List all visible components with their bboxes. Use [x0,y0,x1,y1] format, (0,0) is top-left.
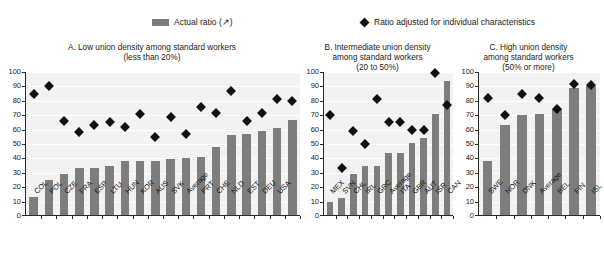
diamond-marker[interactable] [348,126,358,136]
diamond-marker[interactable] [360,139,370,149]
y-tick-label: 100 [8,68,21,76]
y-tick-label: 30 [13,169,21,177]
y-tick-label: 10 [466,198,474,206]
y-tick-label: 100 [306,68,319,76]
category-slot: GBR [406,188,418,238]
category-slot: SWE [479,188,496,238]
diamond-swatch-icon [360,17,370,27]
y-tick-label: 10 [311,198,319,206]
y-tick-label: 80 [13,97,21,105]
chart-legend: Actual ratio (↗) Ratio adjusted for indi… [0,14,604,30]
diamond-marker[interactable] [257,108,267,118]
category-slot: ESP [87,188,102,238]
y-tick-label: 50 [13,140,21,148]
y-tick-label: 90 [13,83,21,91]
legend-label-actual-ratio: Actual ratio (↗) [174,18,233,27]
diamond-marker[interactable] [150,132,160,142]
panel-a-y-axis: 1009080706050403020100 [2,72,26,216]
diamond-marker[interactable] [372,94,382,104]
y-tick-label: 40 [466,155,474,163]
diamond-marker[interactable] [535,93,545,103]
diamond-marker[interactable] [105,117,115,127]
category-slot: KOR [133,188,148,238]
bar-swatch-icon [152,19,169,26]
y-tick-label: 40 [311,155,319,163]
diamond-marker[interactable] [337,163,347,173]
category-slot: Average [531,188,548,238]
panel-a-category-labels: COLPOLCZEFRAESPLTUHUNKORAUSSVKAveragePRT… [26,188,300,238]
y-tick-label: 30 [311,169,319,177]
y-tick-label: 20 [13,183,21,191]
diamond-marker[interactable] [287,96,297,106]
category-slot: GRC [371,188,383,238]
diamond-marker[interactable] [272,94,282,104]
y-tick-label: 90 [311,83,319,91]
diamond-marker[interactable] [384,117,394,127]
category-slot: DEU [254,188,269,238]
category-slot [285,188,300,238]
panel-a-title-line1: A. Low union density among standard work… [2,43,302,53]
diamond-marker[interactable] [135,109,145,119]
diamond-marker[interactable] [90,120,100,130]
panel-b-title: B. Intermediate union density among stan… [300,42,455,72]
diamond-marker[interactable] [120,122,130,132]
diamond-marker[interactable] [44,81,54,91]
legend-item-adjusted-ratio: Ratio adjusted for individual characteri… [360,18,535,27]
diamond-marker[interactable] [227,87,237,97]
panel-a-title-line2: (less than 20%) [2,53,302,63]
diamond-marker[interactable] [59,116,69,126]
category-slot: CHE [209,188,224,238]
y-tick-label: 70 [311,111,319,119]
category-slot: AUT [418,188,430,238]
diamond-marker[interactable] [166,112,176,122]
y-tick-label: 10 [13,198,21,206]
category-slot: ITA [394,188,406,238]
diamond-marker[interactable] [500,110,510,120]
diamond-marker[interactable] [419,125,429,135]
diamond-marker[interactable] [181,129,191,139]
diamond-marker[interactable] [407,125,417,135]
y-tick-label: 0 [17,212,21,220]
panel-a-title: A. Low union density among standard work… [2,42,302,72]
diamond-marker[interactable] [483,93,493,103]
diamond-marker[interactable] [242,116,252,126]
y-tick-label: 80 [311,97,319,105]
category-slot: Average [383,188,395,238]
panel-b-title-line2: among standard workers [300,53,455,63]
legend-item-actual-ratio: Actual ratio (↗) [152,18,233,27]
panel-b-title-line1: B. Intermediate union density [300,43,455,53]
y-tick-label: 30 [466,169,474,177]
y-tick-label: 50 [466,140,474,148]
category-slot: BEL [548,188,565,238]
panel-c-title: C. High union density among standard wor… [455,42,602,72]
category-slot: CHL [347,188,359,238]
category-slot: ISR [430,188,442,238]
category-slot: AUS [148,188,163,238]
diamond-marker[interactable] [196,102,206,112]
panel-b: B. Intermediate union density among stan… [300,42,455,220]
category-slot: PRT [193,188,208,238]
panel-b-category-labels: MEXSVNCHLIRLGRCAverageITAGBRAUTISRCAN [324,188,453,238]
category-slot: LTU [102,188,117,238]
diamond-marker[interactable] [29,89,39,99]
diamond-marker[interactable] [211,108,221,118]
panel-c-title-line1: C. High union density [455,43,602,53]
diamond-marker[interactable] [74,127,84,137]
y-tick-label: 60 [13,126,21,134]
panel-b-y-axis: 1009080706050403020100 [300,72,324,216]
y-tick-label: 60 [466,126,474,134]
category-slot: NOR [496,188,513,238]
x-axis-tick [453,216,454,219]
category-slot: SVN [336,188,348,238]
category-slot: Average [178,188,193,238]
category-slot: FRA [72,188,87,238]
panel-c-category-labels: SWENORDNKAverageBELFINISL [479,188,600,238]
y-tick-label: 20 [311,183,319,191]
diamond-marker[interactable] [395,117,405,127]
diamond-marker[interactable] [325,110,335,120]
category-slot: HUN [117,188,132,238]
category-slot: COL [26,188,41,238]
diamond-marker[interactable] [517,89,527,99]
category-slot: SVK [163,188,178,238]
y-tick-label: 0 [470,212,474,220]
